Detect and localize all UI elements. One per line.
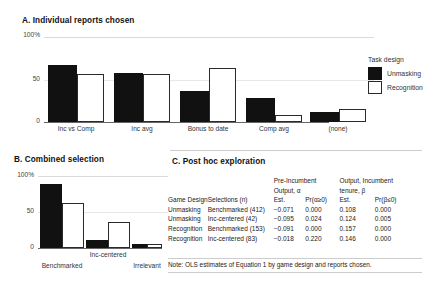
spacer-cell — [168, 176, 208, 195]
bar-unmasking — [132, 244, 147, 248]
cell-beta-est: 0.108 — [340, 205, 375, 215]
cell-alpha-est: −0.091 — [274, 224, 306, 234]
cell-alpha-p: 0.000 — [305, 205, 339, 215]
group-header-alpha-line1: Pre-Incumbent — [274, 176, 340, 186]
bar-unmasking — [180, 91, 209, 122]
legend-item-unmasking: Unmasking — [368, 66, 423, 80]
cell-alpha-p: 0.000 — [305, 224, 339, 234]
panel-a-group-comp-avg — [246, 22, 302, 122]
table-group-header-row: Pre-Incumbent Output, α Output, Incumben… — [168, 176, 422, 195]
panel-b-cat-label-0: Benchmarked — [30, 262, 94, 269]
cell-selections: Benchmarked (153) — [208, 224, 274, 234]
table-row: Recognition Benchmarked (153) −0.091 0.0… — [168, 224, 422, 234]
cell-game-design: Recognition — [168, 234, 208, 244]
cell-beta-p: 0.000 — [375, 234, 422, 244]
bar-recognition — [77, 74, 104, 122]
post-hoc-table: Pre-Incumbent Output, α Output, Incumben… — [168, 176, 422, 243]
cell-game-design: Unmasking — [168, 214, 208, 224]
cell-alpha-est: −0.071 — [274, 205, 306, 215]
cell-game-design: Unmasking — [168, 205, 208, 215]
cell-selections: Inc-centered (42) — [208, 214, 274, 224]
cell-alpha-p: 0.024 — [305, 214, 339, 224]
bar-recognition — [62, 203, 84, 248]
bar-unmasking — [246, 98, 275, 122]
cell-alpha-est: −0.018 — [274, 234, 306, 244]
bar-unmasking — [114, 73, 143, 122]
panel-b-group-inc-centered — [86, 176, 130, 248]
cell-selections: Benchmarked (412) — [208, 205, 274, 215]
legend-swatch-recognition — [368, 81, 382, 94]
cell-game-design: Recognition — [168, 224, 208, 234]
panel-a-group-inc-avg — [114, 22, 170, 122]
table-row: Unmasking Benchmarked (412) −0.071 0.000… — [168, 205, 422, 215]
col-header-alpha-est: Est. — [274, 195, 306, 205]
cell-beta-p: 0.000 — [375, 224, 422, 234]
panel-a-plot: 100% 50 0 Inc vs Comp Inc avg Bonus to d… — [0, 0, 424, 142]
panel-a-legend: Task design Unmasking Recognition — [368, 56, 423, 94]
panel-a-cat-label-4: (none) — [306, 125, 370, 132]
bar-recognition — [108, 222, 130, 248]
col-header-game-design: Game Design — [168, 195, 208, 205]
col-header-beta-p: Pr(β≤0) — [375, 195, 422, 205]
table-column-header-row: Game Design Selections (n) Est. Pr(α≥0) … — [168, 195, 422, 205]
panel-a-ytick-50: 50 — [8, 75, 40, 82]
bar-recognition — [339, 109, 366, 122]
legend-swatch-unmasking — [368, 67, 382, 80]
panel-a-cat-label-1: Inc avg — [110, 125, 174, 132]
panel-a-group-inc-vs-comp — [48, 22, 104, 122]
bar-unmasking — [86, 240, 108, 248]
panel-a-cat-label-2: Bonus to date — [172, 125, 244, 132]
panel-b-cat-label-1: Inc-centered — [76, 251, 140, 258]
panel-c-bottom-rule — [168, 272, 422, 273]
panel-b-group-benchmarked — [40, 176, 84, 248]
panel-c-note: Note: OLS estimates of Equation 1 by gam… — [168, 261, 372, 268]
cell-beta-p: 0.005 — [375, 214, 422, 224]
bar-unmasking — [310, 112, 339, 122]
legend-title: Task design — [368, 56, 423, 63]
col-header-beta-est: Est. — [340, 195, 375, 205]
cell-alpha-p: 0.220 — [305, 234, 339, 244]
bar-recognition — [209, 68, 236, 122]
bar-recognition — [275, 115, 302, 122]
panel-b-group-irrelevant — [132, 176, 162, 248]
group-header-alpha-line2: Output, α — [274, 186, 340, 196]
panel-b-ytick-100: 100% — [2, 171, 34, 178]
group-header-beta-line1: Output, Incumbent — [340, 176, 423, 186]
table-row: Recognition Inc-centered (83) −0.018 0.2… — [168, 234, 422, 244]
panel-a-group-bonus-to-date — [180, 22, 236, 122]
panel-a-cat-label-3: Comp avg — [242, 125, 306, 132]
panel-c-note-rule — [168, 258, 422, 259]
bar-recognition — [147, 244, 162, 248]
legend-label-recognition: Recognition — [387, 84, 423, 91]
panel-b-plot: 100% 50 0 Benchmarked Inc-centered Irrel… — [0, 165, 175, 284]
cell-beta-est: 0.124 — [340, 214, 375, 224]
bar-unmasking — [40, 184, 62, 248]
panel-a-ytick-100: 100% — [8, 31, 40, 38]
col-header-selections: Selections (n) — [208, 195, 274, 205]
col-header-alpha-p: Pr(α≥0) — [305, 195, 339, 205]
table-row: Unmasking Inc-centered (42) −0.095 0.024… — [168, 214, 422, 224]
panel-a-group-none — [310, 22, 366, 122]
panel-a-baseline — [44, 122, 329, 123]
panel-b-ytick-0: 0 — [2, 243, 34, 250]
panel-c-title: C. Post hoc exploration — [172, 157, 265, 166]
panel-b-title: B. Combined selection — [14, 155, 104, 164]
panel-b-baseline — [38, 248, 162, 249]
panel-a-cat-label-0: Inc vs Comp — [40, 125, 112, 132]
spacer-cell — [208, 176, 274, 195]
legend-item-recognition: Recognition — [368, 80, 423, 94]
panel-a-ytick-0: 0 — [8, 117, 40, 124]
panel-b-ytick-50: 50 — [2, 207, 34, 214]
bar-recognition — [143, 74, 170, 122]
cell-beta-est: 0.146 — [340, 234, 375, 244]
group-header-alpha: Pre-Incumbent Output, α — [274, 176, 340, 195]
group-header-beta: Output, Incumbent tenure, β — [340, 176, 423, 195]
legend-label-unmasking: Unmasking — [387, 70, 421, 77]
cell-beta-est: 0.157 — [340, 224, 375, 234]
panel-c-top-rule — [170, 150, 422, 151]
bar-unmasking — [48, 65, 77, 122]
group-header-beta-line2: tenure, β — [340, 186, 423, 196]
cell-alpha-est: −0.095 — [274, 214, 306, 224]
cell-beta-p: 0.000 — [375, 205, 422, 215]
cell-selections: Inc-centered (83) — [208, 234, 274, 244]
